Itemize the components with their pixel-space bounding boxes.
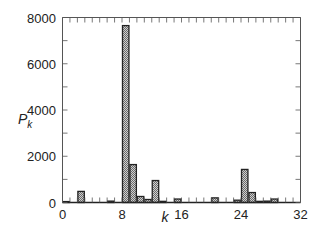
bars [63, 26, 278, 203]
x-tick-label: 16 [174, 207, 188, 222]
x-tick-label: 0 [59, 207, 66, 222]
bar-chart: 0816243202000400060008000 Pk k [0, 0, 326, 232]
bar [130, 165, 136, 203]
y-tick-label: 8000 [27, 11, 56, 26]
bar [242, 169, 248, 202]
y-tick-label: 6000 [27, 57, 56, 72]
bar [249, 193, 255, 203]
bar [78, 191, 84, 202]
tick-labels: 0816243202000400060008000 [27, 11, 308, 223]
bar [152, 181, 158, 203]
bar [137, 196, 143, 202]
x-tick-label: 32 [293, 207, 307, 222]
x-tick-label: 8 [118, 207, 125, 222]
y-tick-label: 2000 [27, 149, 56, 164]
y-tick-label: 0 [49, 196, 56, 211]
plot-frame [63, 18, 301, 203]
x-tick-label: 24 [234, 207, 248, 222]
x-axis-label: k [162, 209, 170, 225]
bar [123, 26, 129, 203]
y-tick-label: 4000 [27, 103, 56, 118]
